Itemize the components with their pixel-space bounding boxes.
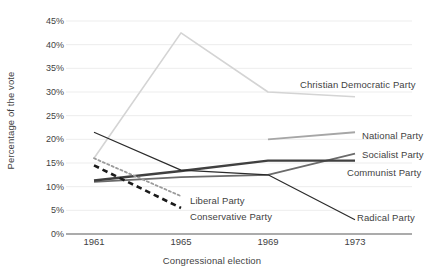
x-axis-tick-label: 1973	[344, 237, 365, 247]
x-axis-title-text: Congressional election	[163, 255, 261, 266]
x-axis-tick-label: 1961	[83, 237, 104, 247]
x-axis-tick-labels: 1961196519691973	[0, 0, 424, 277]
line-chart: Percentage of the vote 0%5%10%15%20%25%3…	[0, 0, 424, 277]
x-axis-title: Congressional election	[0, 255, 424, 266]
x-axis-tick-label: 1969	[257, 237, 278, 247]
x-axis-tick-label: 1965	[170, 237, 191, 247]
